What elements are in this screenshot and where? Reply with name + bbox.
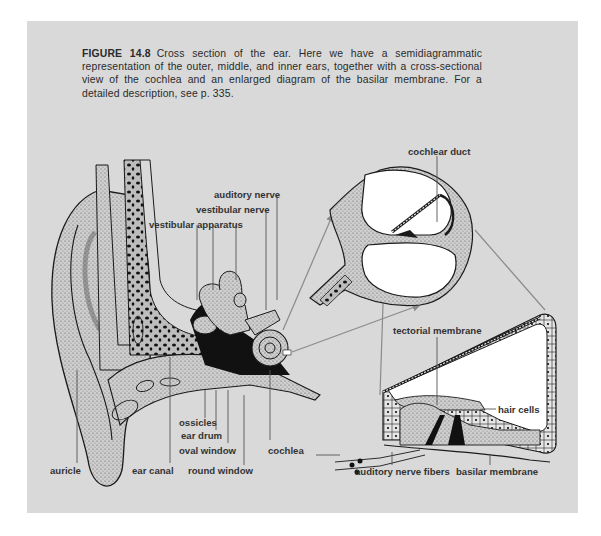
label-ear-canal: ear canal — [132, 465, 174, 476]
label-ossicles: ossicles — [179, 417, 217, 428]
label-oval-window: oval window — [179, 445, 236, 456]
label-auricle: auricle — [50, 465, 81, 476]
label-ear-drum: ear drum — [181, 430, 222, 441]
label-auditory-nerve: auditory nerve — [214, 189, 280, 200]
label-vestibular-nerve: vestibular nerve — [196, 204, 270, 215]
label-vestibular-apparatus: vestibular apparatus — [149, 219, 243, 230]
label-basilar-membrane: basilar membrane — [456, 466, 538, 477]
basilar-membrane-diagram — [335, 314, 556, 474]
label-round-window: round window — [188, 465, 253, 476]
label-auditory-nerve-fibers: auditory nerve fibers — [355, 466, 450, 477]
skull-bone — [96, 160, 210, 370]
label-tectorial-membrane: tectorial membrane — [393, 325, 482, 336]
cochlea-cross-section — [310, 167, 473, 306]
label-cochlear-duct: cochlear duct — [408, 146, 470, 157]
label-hair-cells: hair cells — [498, 404, 540, 415]
label-cochlea: cochlea — [268, 445, 304, 456]
